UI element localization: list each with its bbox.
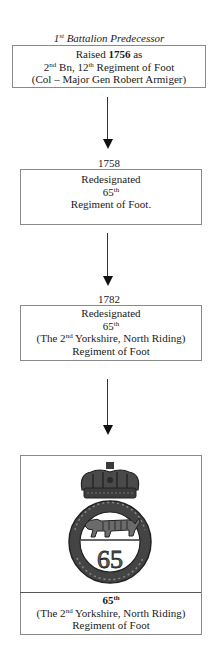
node-1782-line-1: Redesignated: [21, 307, 201, 320]
arrow-head-icon-1: [103, 139, 113, 149]
title-rest: Battalion Predecessor: [64, 32, 164, 44]
node-badge-line-3: Regiment of Foot: [20, 619, 202, 632]
arrow-line-3: [107, 379, 108, 425]
arrow-line-2: [107, 233, 108, 276]
badge-divider: [20, 592, 201, 593]
node-1756-line-3: (Col – Major Gen Robert Armiger): [13, 73, 205, 86]
node-badge-caption: 65th (The 2nd Yorkshire, North Riding) R…: [20, 594, 202, 632]
arrow-head-icon-3: [103, 425, 113, 435]
node-1782: Redesignated 65th (The 2nd Yorkshire, No…: [20, 305, 202, 361]
node-1758-line-3: Regiment of Foot.: [21, 198, 201, 211]
node-1758-line-2: 65th: [21, 186, 201, 199]
node-1758: Redesignated 65th Regiment of Foot.: [20, 169, 202, 225]
badge-numeral: 65: [97, 545, 123, 574]
node-1782-year: 1782: [0, 293, 218, 305]
node-1782-line-2: 65th: [21, 320, 201, 333]
arrow-head-icon-2: [103, 276, 113, 286]
regimental-badge-icon: 65: [55, 460, 165, 590]
node-1758-line-1: Redesignated: [21, 173, 201, 186]
node-1756: Raised 1756 as 2nd Bn, 12th Regiment of …: [12, 45, 206, 88]
node-badge-line-2: (The 2nd Yorkshire, North Riding): [20, 607, 202, 620]
arrow-line-1: [107, 97, 108, 139]
node-badge-line-1: 65th: [20, 594, 202, 607]
node-1756-line-1: Raised 1756 as: [13, 48, 205, 61]
node-1782-line-4: Regiment of Foot: [21, 345, 201, 358]
node-1756-line-2: 2nd Bn, 12th Regiment of Foot: [13, 61, 205, 74]
diagram-title: 1st Battalion Predecessor: [0, 32, 218, 44]
node-1758-year: 1758: [0, 157, 218, 169]
node-1782-line-3: (The 2nd Yorkshire, North Riding): [21, 332, 201, 345]
